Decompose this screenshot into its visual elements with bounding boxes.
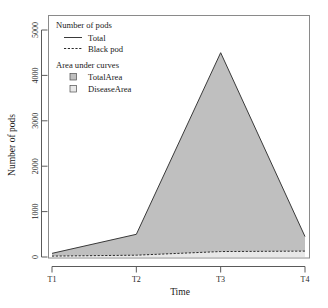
legend-group-pods-title: Number of pods — [56, 20, 113, 30]
legend-item-diseasearea[interactable]: DiseaseArea — [88, 84, 132, 94]
y-tick-label: 0 — [31, 255, 40, 259]
x-tick-label: T4 — [301, 275, 310, 284]
y-tick-label: 2000 — [31, 158, 40, 174]
legend-item-black-pod[interactable]: Black pod — [88, 44, 124, 54]
legend-item-total[interactable]: Total — [88, 33, 106, 43]
legend-item-totalarea[interactable]: TotalArea — [88, 72, 122, 82]
legend-diseasearea-swatch — [70, 86, 77, 93]
y-tick-label: 4000 — [31, 67, 40, 83]
x-tick-label: T2 — [132, 275, 141, 284]
pods-area-chart: 010002000300040005000 Number of pods T1T… — [0, 0, 328, 308]
y-tick-label: 3000 — [31, 113, 40, 129]
x-axis-title: Time — [170, 287, 190, 297]
legend-group-area-title: Area under curves — [56, 60, 120, 70]
chart-canvas: 010002000300040005000 Number of pods T1T… — [0, 0, 328, 308]
y-tick-label: 1000 — [31, 204, 40, 220]
x-tick-label: T3 — [216, 275, 225, 284]
y-tick-label: 5000 — [31, 22, 40, 38]
legend-totalarea-swatch — [70, 74, 77, 81]
x-tick-label: T1 — [48, 275, 57, 284]
y-axis-title: Number of pods — [7, 114, 17, 176]
chart-background — [0, 0, 328, 308]
